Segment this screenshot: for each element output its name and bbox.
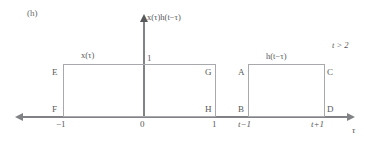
x-tick-label-t-plus-one: t+1 [311, 120, 324, 129]
vertex-label-c: C [327, 68, 333, 77]
y-tick-label-one: 1 [147, 54, 152, 63]
vertex-label-e: E [52, 68, 58, 77]
pulse-rectangle-x [63, 64, 216, 117]
vertex-label-a: A [238, 68, 245, 77]
pulse-rectangle-h [248, 64, 325, 117]
x-tick-label-t-minus-one: t−1 [238, 120, 251, 129]
condition-annotation: t > 2 [332, 41, 349, 50]
x-axis-label: τ [352, 126, 355, 135]
y-axis-label: x(τ)h(t−τ) [147, 13, 181, 22]
x-axis-arrow-right-icon [347, 113, 355, 121]
vertex-label-b: B [238, 105, 244, 114]
caption-right-pulse: h(t−τ) [266, 52, 286, 61]
vertex-label-h: H [205, 105, 212, 114]
x-tick-label-zero: 0 [140, 120, 145, 129]
vertex-label-d: D [327, 105, 334, 114]
vertex-label-f: F [52, 105, 57, 114]
figure-canvas: (h) x(τ)h(t−τ) τ x(τ) h(t−τ) t > 2 1 −1 … [0, 0, 369, 144]
x-tick-label-one: 1 [212, 120, 217, 129]
vertex-label-g: G [205, 68, 212, 77]
x-tick-label-neg-one: −1 [56, 120, 66, 129]
caption-left-pulse: x(τ) [81, 51, 94, 60]
x-axis-arrow-left-icon [15, 113, 23, 121]
panel-label: (h) [27, 9, 38, 18]
